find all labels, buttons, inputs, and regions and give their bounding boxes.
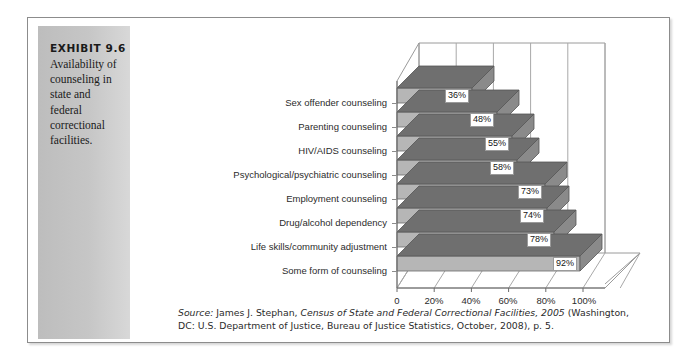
category-label-parenting-counseling: Parenting counseling <box>131 122 387 132</box>
data-label-employment-counseling: 73% <box>518 185 542 199</box>
x-tick-label-40: 40% <box>454 295 488 306</box>
data-label-life-skills-community-adjustment: 78% <box>527 233 551 247</box>
source-prefix: Source: <box>178 307 213 318</box>
data-label-sex-offender-counseling: 36% <box>445 89 469 103</box>
figure-frame: EXHIBIT 9.6 Availability of counseling i… <box>27 17 670 343</box>
x-axis <box>397 288 605 292</box>
exhibit-caption-panel: EXHIBIT 9.6 Availability of counseling i… <box>38 26 130 339</box>
data-label-some-form-of-counseling: 92% <box>553 257 577 271</box>
exhibit-caption-text: Availability of counseling in state and … <box>50 57 120 148</box>
cat-tick-3 <box>392 175 397 176</box>
category-label-drug-alcohol-dependency: Drug/alcohol dependency <box>131 218 387 228</box>
source-note: Source: James J. Stephan, Census of Stat… <box>178 306 648 333</box>
x-tick-label-60: 60% <box>491 295 525 306</box>
data-label-hiv-aids-counseling: 55% <box>485 137 509 151</box>
figure-screenshot: EXHIBIT 9.6 Availability of counseling i… <box>0 0 698 364</box>
x-tick-label-100: 100% <box>564 295 604 306</box>
x-tick-label-20: 20% <box>417 295 451 306</box>
x-tick-label-0: 0 <box>387 295 407 306</box>
source-author: James J. Stephan, <box>213 307 300 318</box>
chart-area: Sex offender counseling Parenting counse… <box>131 26 669 342</box>
cat-tick-5 <box>392 223 397 224</box>
data-label-drug-alcohol-dependency: 74% <box>520 209 544 223</box>
cat-tick-6 <box>392 247 397 248</box>
cat-tick-4 <box>392 199 397 200</box>
category-label-psychological-psychiatric-counseling: Psychological/psychiatric counseling <box>131 170 387 180</box>
category-label-employment-counseling: Employment counseling <box>131 194 387 204</box>
category-label-sex-offender-counseling: Sex offender counseling <box>131 98 387 108</box>
category-label-hiv-aids-counseling: HIV/AIDS counseling <box>131 146 387 156</box>
data-label-psychological-psychiatric-counseling: 58% <box>490 161 514 175</box>
x-tick-label-80: 80% <box>529 295 563 306</box>
exhibit-label: EXHIBIT 9.6 <box>50 42 120 54</box>
cat-tick-0 <box>392 103 397 104</box>
source-title: Census of State and Federal Correctional… <box>300 307 564 318</box>
cat-tick-1 <box>392 127 397 128</box>
data-label-parenting-counseling: 48% <box>470 113 494 127</box>
category-label-life-skills-community-adjustment: Life skills/community adjustment <box>131 242 387 252</box>
category-label-some-form-of-counseling: Some form of counseling <box>131 266 387 276</box>
cat-tick-7 <box>392 271 397 272</box>
cat-tick-2 <box>392 151 397 152</box>
